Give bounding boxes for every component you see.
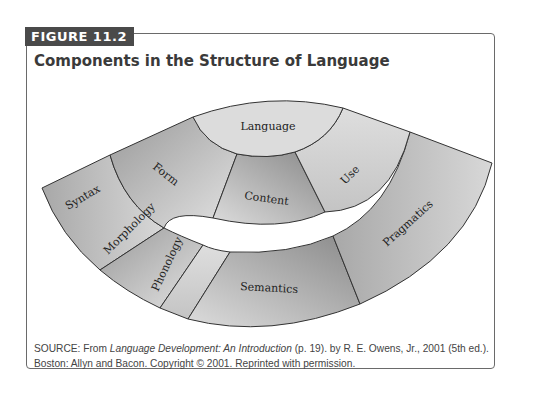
- label-language: Language: [240, 120, 295, 133]
- book-title: Language Development: An Introduction: [110, 343, 292, 354]
- source-citation: SOURCE: From Language Development: An In…: [34, 341, 489, 371]
